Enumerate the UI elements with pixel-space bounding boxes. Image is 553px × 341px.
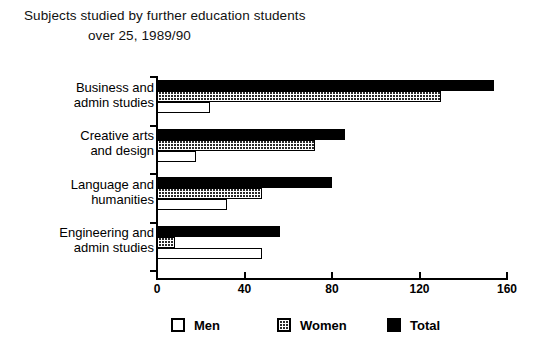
x-tick-label: 40 — [238, 282, 251, 296]
x-tick-label: 160 — [497, 282, 517, 296]
category-label: Business and admin studies — [0, 80, 154, 110]
x-tick-mark — [156, 272, 158, 280]
legend-label-total: Total — [410, 318, 440, 333]
legend-label-men: Men — [194, 318, 220, 333]
x-tick-label: 80 — [325, 282, 338, 296]
y-tick-mark — [150, 222, 157, 224]
bar-women — [157, 140, 315, 151]
bar-women — [157, 237, 175, 248]
x-tick-mark — [244, 272, 246, 280]
legend-item-women: Women — [277, 316, 347, 334]
category-label: Language and humanities — [0, 177, 154, 207]
legend-item-total: Total — [387, 316, 440, 334]
bar-total — [157, 129, 345, 140]
bar-women — [157, 91, 441, 102]
chart-legend: Men Women Total — [0, 316, 553, 336]
x-tick-label: 120 — [409, 282, 429, 296]
category-label: Creative arts and design — [0, 128, 154, 158]
bar-total — [157, 80, 494, 91]
bar-men — [157, 102, 210, 113]
bar-men — [157, 248, 262, 259]
legend-swatch-total-icon — [387, 318, 401, 332]
legend-label-women: Women — [300, 318, 347, 333]
plot-area: 04080120160 Business and admin studiesCr… — [0, 0, 553, 341]
legend-item-men: Men — [171, 316, 220, 334]
y-tick-mark — [150, 270, 157, 272]
y-tick-mark — [150, 173, 157, 175]
legend-swatch-women-icon — [277, 318, 291, 332]
x-tick-mark — [506, 272, 508, 280]
bar-total — [157, 177, 332, 188]
x-tick-mark — [331, 272, 333, 280]
bar-men — [157, 151, 196, 162]
x-tick-mark — [419, 272, 421, 280]
bar-men — [157, 199, 227, 210]
x-tick-label: 0 — [154, 282, 161, 296]
chart-container: Subjects studied by further education st… — [0, 0, 553, 341]
bar-total — [157, 226, 280, 237]
legend-swatch-men-icon — [171, 318, 185, 332]
y-tick-mark — [150, 76, 157, 78]
y-tick-mark — [150, 125, 157, 127]
bar-women — [157, 188, 262, 199]
category-label: Engineering and admin studies — [0, 225, 154, 255]
